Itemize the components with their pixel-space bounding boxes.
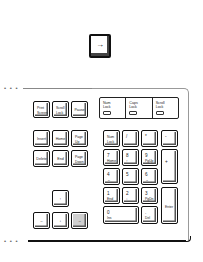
scroll-lock-key: Scroll Lock bbox=[52, 101, 69, 118]
numpad-minus-key: - bbox=[161, 130, 178, 147]
key-label: + bbox=[165, 159, 175, 164]
caps-lock-indicator: Caps Lock bbox=[126, 98, 152, 118]
insert-key: Insert bbox=[33, 130, 50, 147]
continuation-dots-top: • • • bbox=[4, 85, 19, 91]
numpad-decimal-key: . Del bbox=[141, 206, 158, 224]
key-label: 9 bbox=[145, 153, 155, 158]
end-key: End bbox=[52, 150, 69, 167]
key-label: . bbox=[145, 210, 155, 215]
lock-indicator-panel: Num Lock Caps Lock Scroll Lock bbox=[99, 97, 179, 119]
led-icon bbox=[129, 111, 137, 116]
continuation-dots-bottom: • • • bbox=[4, 238, 19, 244]
arrow-up-icon: ↑ bbox=[60, 197, 62, 201]
scroll-lock-indicator: Scroll Lock bbox=[153, 98, 178, 118]
key-label: Ins bbox=[107, 216, 136, 220]
numpad-enter-key: Enter bbox=[161, 187, 178, 224]
down-arrow-key: ↓ bbox=[52, 212, 69, 229]
numpad-9-key: 9 PgUp bbox=[141, 149, 158, 166]
key-label: 5 bbox=[126, 172, 136, 177]
key-label: End bbox=[107, 197, 117, 201]
arrow-left-icon: ← bbox=[40, 219, 44, 223]
key-label: Del bbox=[145, 216, 155, 220]
key-label: Pause bbox=[74, 108, 84, 112]
key-label: Print bbox=[37, 106, 47, 110]
key-label: Delete bbox=[36, 157, 46, 161]
page-down-key: Page Down bbox=[71, 150, 88, 167]
key-label: 3 bbox=[145, 191, 155, 196]
numpad-6-key: 6 → bbox=[141, 168, 158, 185]
key-label: PgDn bbox=[145, 197, 155, 201]
left-arrow-key: ← bbox=[33, 212, 50, 229]
key-label: Num bbox=[107, 135, 117, 139]
arrow-left-icon: ← bbox=[107, 178, 117, 182]
key-label: 4 bbox=[107, 172, 117, 177]
num-lock-indicator: Num Lock bbox=[100, 98, 126, 118]
key-label: Up bbox=[75, 140, 85, 144]
key-label: 2 bbox=[126, 191, 136, 196]
key-label: Down bbox=[75, 160, 85, 164]
keyboard-bottom-corner bbox=[186, 236, 191, 242]
right-arrow-key-highlighted: → bbox=[71, 212, 88, 229]
key-label: 8 bbox=[126, 153, 136, 158]
key-label: Page bbox=[75, 155, 85, 159]
led-icon bbox=[103, 111, 111, 116]
key-label: Page bbox=[75, 135, 85, 139]
indicator-label: Lock bbox=[129, 105, 149, 109]
page-up-key: Page Up bbox=[71, 130, 88, 147]
numpad-4-key: 4 ← bbox=[103, 168, 120, 185]
arrow-down-icon: ↓ bbox=[60, 219, 62, 223]
highlighted-right-arrow-key: → bbox=[89, 34, 111, 58]
numpad-plus-key: + bbox=[161, 149, 178, 184]
numpad-8-key: 8 ↑ bbox=[122, 149, 139, 166]
numpad-1-key: 1 End bbox=[103, 187, 120, 204]
indicator-label: Lock bbox=[156, 105, 176, 109]
key-label: Home bbox=[107, 159, 117, 163]
home-key: Home bbox=[52, 130, 69, 147]
numpad-7-key: 7 Home bbox=[103, 149, 120, 166]
key-label: / bbox=[126, 134, 136, 139]
key-label: Lock bbox=[107, 140, 117, 144]
up-arrow-key: ↑ bbox=[52, 190, 69, 207]
key-label: 7 bbox=[107, 153, 117, 158]
numpad-divide-key: / bbox=[122, 130, 139, 147]
numpad-0-key: 0 Ins bbox=[103, 206, 139, 224]
arrow-up-icon: ↑ bbox=[126, 159, 136, 163]
key-label: 6 bbox=[145, 172, 155, 177]
numpad-num-lock-key: Num Lock bbox=[103, 130, 120, 147]
key-label: Screen bbox=[37, 111, 47, 115]
key-label: 1 bbox=[107, 191, 117, 196]
key-label: Scroll bbox=[56, 106, 66, 110]
arrow-right-icon: → bbox=[145, 178, 155, 182]
key-label: End bbox=[57, 157, 63, 161]
indicator-label: Lock bbox=[103, 105, 123, 109]
numpad-5-key: 5 bbox=[122, 168, 139, 185]
key-label: * bbox=[145, 134, 155, 139]
key-label: PgUp bbox=[145, 159, 155, 163]
print-screen-key: Print Screen bbox=[33, 101, 50, 118]
arrow-down-icon: ↓ bbox=[126, 197, 136, 201]
arrow-right-icon: → bbox=[96, 40, 104, 49]
key-label: 0 bbox=[107, 210, 136, 215]
delete-key: Delete bbox=[33, 150, 50, 167]
numpad-multiply-key: * bbox=[141, 130, 158, 147]
key-label: Lock bbox=[56, 111, 66, 115]
pause-key: Pause bbox=[71, 101, 88, 118]
key-label: - bbox=[165, 134, 175, 139]
arrow-right-icon: → bbox=[78, 219, 82, 223]
numpad-2-key: 2 ↓ bbox=[122, 187, 139, 204]
numpad-3-key: 3 PgDn bbox=[141, 187, 158, 204]
key-label: Enter bbox=[165, 205, 175, 209]
led-icon bbox=[156, 111, 164, 116]
keyboard-bottom-edge bbox=[28, 240, 186, 242]
key-label: Home bbox=[56, 137, 66, 141]
key-label: Insert bbox=[37, 137, 46, 141]
